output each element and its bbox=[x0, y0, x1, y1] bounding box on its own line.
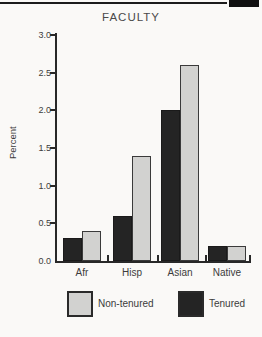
y-tick-label: 1.5 bbox=[29, 144, 51, 153]
y-tick-label: 2.5 bbox=[29, 69, 51, 78]
tenured-bar-native bbox=[208, 246, 227, 261]
x-category-label-native: Native bbox=[197, 267, 257, 278]
x-axis-line bbox=[55, 261, 251, 263]
legend-swatch-tenured bbox=[178, 291, 204, 317]
y-tick-label: 0.5 bbox=[29, 219, 51, 228]
non-tenured-bar-afr bbox=[82, 231, 101, 261]
chart-title: FACULTY bbox=[0, 11, 262, 23]
y-axis-line bbox=[55, 33, 57, 263]
non-tenured-bar-hisp bbox=[132, 156, 151, 261]
non-tenured-bar-native bbox=[227, 246, 246, 261]
x-tick bbox=[157, 255, 159, 261]
page-header-block bbox=[229, 0, 259, 7]
tenured-bar-asian bbox=[161, 110, 180, 261]
legend-label-tenured: Tenured bbox=[209, 298, 245, 310]
page-header-rule bbox=[0, 2, 227, 4]
x-tick bbox=[205, 255, 207, 261]
y-axis-label: Percent bbox=[7, 141, 27, 159]
y-tick-label: 2.0 bbox=[29, 106, 51, 115]
y-tick-label: 1.0 bbox=[29, 182, 51, 191]
tenured-bar-hisp bbox=[113, 216, 132, 261]
tenured-bar-afr bbox=[63, 238, 82, 261]
y-tick-label: 3.0 bbox=[29, 31, 51, 40]
x-tick bbox=[107, 255, 109, 261]
y-tick-label: 0.0 bbox=[29, 257, 51, 266]
legend-label-non-tenured: Non-tenured bbox=[98, 298, 154, 310]
non-tenured-bar-asian bbox=[180, 65, 199, 261]
x-tick bbox=[249, 255, 251, 261]
legend-swatch-non-tenured bbox=[67, 291, 93, 317]
